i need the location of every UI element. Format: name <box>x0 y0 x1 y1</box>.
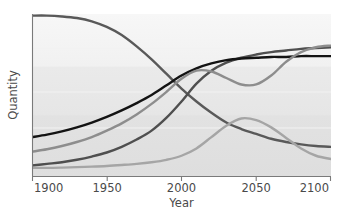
x-tick-label: 2000 <box>167 181 196 195</box>
x-tick-label: 1950 <box>93 181 122 195</box>
x-tick-label: 1900 <box>34 181 63 195</box>
x-tick-labels: 1900 1950 2000 2050 2100 <box>34 181 329 195</box>
x-tick-label: 2100 <box>300 181 329 195</box>
y-axis-title: Quantity <box>6 70 20 120</box>
x-axis-title: Year <box>168 196 194 210</box>
chart-figure: 1900 1950 2000 2050 2100 Year Quantity <box>0 0 346 212</box>
line-chart: 1900 1950 2000 2050 2100 Year Quantity <box>0 0 346 212</box>
plot-area-background <box>32 14 331 176</box>
x-tick-label: 2050 <box>242 181 271 195</box>
